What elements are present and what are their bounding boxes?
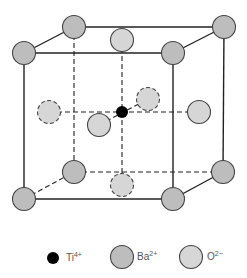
o-ion-icon bbox=[111, 174, 134, 197]
perovskite-unit-cell-diagram bbox=[0, 0, 247, 278]
legend-symbol-o: O bbox=[207, 251, 215, 262]
ba-ion-icon bbox=[13, 42, 36, 65]
legend-symbol-ba: Ba bbox=[137, 251, 149, 262]
o-ion-icon bbox=[188, 101, 211, 124]
o-ion-icon bbox=[88, 114, 111, 137]
ti-ion-icon bbox=[116, 106, 128, 118]
o-ion-icon bbox=[137, 88, 160, 111]
ba-ion-icon bbox=[162, 42, 185, 65]
legend-marker-o-icon bbox=[180, 246, 203, 269]
ba-ion-icon bbox=[63, 161, 86, 184]
legend-charge-o: 2− bbox=[215, 250, 223, 257]
legend-symbol-ti: Ti bbox=[66, 252, 74, 263]
legend-label-ba: Ba2+ bbox=[137, 251, 157, 263]
ions bbox=[13, 16, 236, 211]
ba-ion-icon bbox=[212, 161, 235, 184]
legend-charge-ti: 4+ bbox=[74, 251, 82, 258]
o-ion-icon bbox=[111, 29, 134, 52]
cube-edge-solid bbox=[223, 27, 224, 172]
legend-marker-ti-icon bbox=[47, 252, 59, 264]
legend-marker-ba-icon bbox=[111, 246, 134, 269]
ba-ion-icon bbox=[162, 188, 185, 211]
legend-label-o: O2− bbox=[207, 251, 223, 263]
legend-label-ti: Ti4+ bbox=[66, 252, 82, 264]
legend-charge-ba: 2+ bbox=[149, 250, 157, 257]
ba-ion-icon bbox=[213, 16, 236, 39]
ba-ion-icon bbox=[63, 16, 86, 39]
o-ion-icon bbox=[38, 101, 61, 124]
ba-ion-icon bbox=[13, 188, 36, 211]
